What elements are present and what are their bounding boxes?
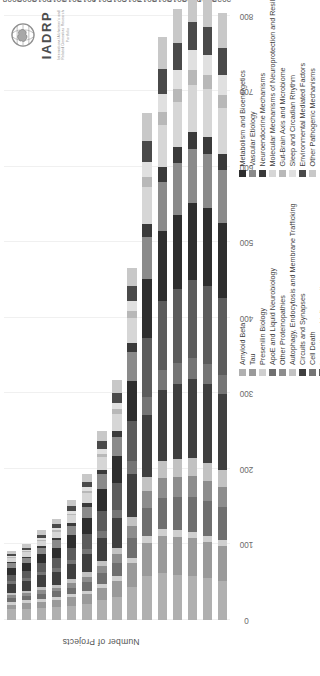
- bar-segment[interactable]: [67, 564, 76, 579]
- bar-segment[interactable]: [97, 561, 106, 566]
- bar-segment[interactable]: [22, 571, 31, 578]
- bar-segment[interactable]: [7, 551, 16, 554]
- bar-segment[interactable]: [127, 563, 136, 586]
- bar-segment[interactable]: [82, 582, 91, 590]
- bar-segment[interactable]: [218, 394, 227, 469]
- bar-segment[interactable]: [112, 483, 121, 509]
- bar-row[interactable]: [127, 16, 136, 620]
- bar-segment[interactable]: [22, 544, 31, 548]
- bar-segment[interactable]: [203, 502, 212, 537]
- stacked-bar[interactable]: [218, 13, 227, 620]
- bar-row[interactable]: [142, 16, 151, 620]
- stacked-bar[interactable]: [188, 0, 197, 620]
- legend-item[interactable]: Vascular Etiology: [248, 0, 257, 177]
- bar-segment[interactable]: [82, 482, 91, 487]
- bar-row[interactable]: [188, 16, 197, 620]
- bar-segment[interactable]: [158, 167, 167, 182]
- bar-segment[interactable]: [37, 546, 46, 548]
- bar-segment[interactable]: [67, 526, 76, 535]
- bar-segment[interactable]: [112, 431, 121, 437]
- bar-segment[interactable]: [188, 458, 197, 476]
- bar-segment[interactable]: [127, 352, 136, 381]
- bar-segment[interactable]: [82, 491, 91, 493]
- bar-segment[interactable]: [97, 470, 106, 475]
- bar-segment[interactable]: [203, 154, 212, 208]
- bar-segment[interactable]: [67, 506, 76, 511]
- bar-segment[interactable]: [67, 579, 76, 583]
- bar-segment[interactable]: [112, 554, 121, 562]
- bar-segment[interactable]: [173, 43, 182, 69]
- bar-segment[interactable]: [127, 538, 136, 558]
- bar-segment[interactable]: [7, 598, 16, 602]
- bar-segment[interactable]: [218, 581, 227, 620]
- bar-segment[interactable]: [112, 597, 121, 620]
- bar-segment[interactable]: [82, 554, 91, 572]
- bar-segment[interactable]: [218, 95, 227, 109]
- bar-segment[interactable]: [173, 363, 182, 383]
- bar-segment[interactable]: [173, 9, 182, 44]
- legend-item[interactable]: Amyloid Beta: [238, 203, 247, 376]
- bar-segment[interactable]: [173, 530, 182, 537]
- bar-segment[interactable]: [67, 511, 76, 514]
- legend-item[interactable]: Neuroendocrine Mechanisms: [258, 0, 267, 177]
- legend-item[interactable]: Gut-Brain Axis and Microbiome: [278, 0, 287, 177]
- bar-segment[interactable]: [173, 163, 182, 215]
- stacked-bar[interactable]: [142, 113, 151, 620]
- bar-segment[interactable]: [52, 572, 61, 585]
- bar-segment[interactable]: [22, 578, 31, 581]
- bar-segment[interactable]: [158, 462, 167, 479]
- bar-segment[interactable]: [22, 551, 31, 552]
- bar-segment[interactable]: [22, 596, 31, 601]
- bar-row[interactable]: [173, 16, 182, 620]
- bar-segment[interactable]: [52, 585, 61, 588]
- bar-segment[interactable]: [37, 540, 46, 541]
- legend-item[interactable]: Environmental Mediated Factors: [298, 0, 307, 177]
- bar-segment[interactable]: [7, 584, 16, 593]
- bar-segment[interactable]: [22, 548, 31, 550]
- bar-segment[interactable]: [112, 510, 121, 518]
- bar-segment[interactable]: [52, 600, 61, 607]
- bar-segment[interactable]: [7, 556, 16, 558]
- bar-segment[interactable]: [52, 607, 61, 620]
- bar-segment[interactable]: [22, 552, 31, 557]
- stacked-bar[interactable]: [37, 530, 46, 620]
- bar-segment[interactable]: [112, 518, 121, 547]
- bar-segment[interactable]: [112, 410, 121, 415]
- bar-segment[interactable]: [218, 507, 227, 540]
- bar-segment[interactable]: [188, 532, 197, 539]
- bar-segment[interactable]: [112, 548, 121, 555]
- bar-segment[interactable]: [127, 381, 136, 422]
- bar-segment[interactable]: [203, 364, 212, 384]
- bar-segment[interactable]: [7, 554, 16, 556]
- bar-segment[interactable]: [112, 414, 121, 431]
- bar-segment[interactable]: [127, 286, 136, 300]
- bar-segment[interactable]: [188, 132, 197, 149]
- bar-segment[interactable]: [7, 575, 16, 581]
- bar-segment[interactable]: [127, 474, 136, 517]
- bar-segment[interactable]: [142, 113, 151, 141]
- bar-segment[interactable]: [142, 279, 151, 339]
- bar-segment[interactable]: [22, 558, 31, 563]
- bar-segment[interactable]: [52, 591, 61, 597]
- bar-segment[interactable]: [7, 562, 16, 564]
- bar-segment[interactable]: [218, 470, 227, 487]
- bar-row[interactable]: [158, 16, 167, 620]
- bar-segment[interactable]: [158, 301, 167, 370]
- bar-segment[interactable]: [22, 603, 31, 608]
- bar-segment[interactable]: [158, 370, 167, 390]
- bar-segment[interactable]: [112, 576, 121, 581]
- bar-segment[interactable]: [112, 437, 121, 457]
- bar-segment[interactable]: [142, 576, 151, 620]
- bar-segment[interactable]: [7, 568, 16, 575]
- bar-segment[interactable]: [158, 231, 167, 300]
- bar-segment[interactable]: [173, 215, 182, 289]
- bar-segment[interactable]: [67, 514, 76, 516]
- bar-segment[interactable]: [127, 301, 136, 312]
- bar-segment[interactable]: [67, 597, 76, 605]
- bar-segment[interactable]: [173, 459, 182, 476]
- bar-segment[interactable]: [97, 474, 106, 489]
- bar-row[interactable]: [218, 16, 227, 620]
- bar-segment[interactable]: [112, 581, 121, 597]
- bar-segment[interactable]: [37, 548, 46, 554]
- bar-segment[interactable]: [97, 457, 106, 470]
